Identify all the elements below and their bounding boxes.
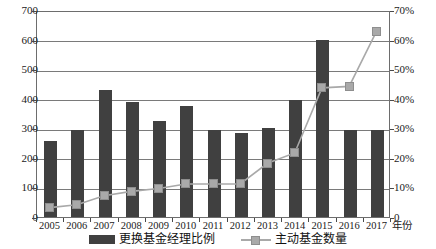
left-axis-tick-mark: [32, 11, 36, 12]
bar-2015: [316, 40, 329, 217]
gridline: [37, 100, 389, 101]
x-axis-tick-mark: [199, 218, 200, 222]
line-marker-2005: [45, 203, 54, 212]
x-axis-title: 年份: [392, 220, 412, 232]
left-axis-tick-mark: [32, 188, 36, 189]
x-axis-tick-mark: [63, 218, 64, 222]
x-axis-tick-label-2017: 2017: [360, 220, 392, 232]
legend-entry-line-series: 主动基金数量: [241, 233, 347, 246]
legend-label-line-series: 主动基金数量: [275, 233, 347, 246]
x-axis-tick-mark: [308, 218, 309, 222]
line-marker-2017: [372, 27, 381, 36]
legend-entry-bar-series: 更换基金经理比例: [89, 233, 215, 246]
bar-2013: [262, 128, 275, 217]
bar-2011: [208, 130, 221, 217]
x-axis-tick-mark: [145, 218, 146, 222]
line-marker-2012: [236, 179, 245, 188]
bar-2014: [289, 100, 302, 217]
bar-2017: [371, 130, 384, 217]
line-marker-2015: [317, 83, 326, 92]
left-axis-tick-mark: [32, 100, 36, 101]
right-axis-tick-mark: [390, 70, 394, 71]
gridline: [37, 41, 389, 42]
line-marker-2009: [154, 184, 163, 193]
line-marker-2014: [290, 148, 299, 157]
right-axis-tick-label: 60%: [394, 35, 434, 46]
right-axis-tick-mark: [390, 159, 394, 160]
x-axis-tick-mark: [281, 218, 282, 222]
right-axis-tick-label: 30%: [394, 123, 434, 134]
legend-line-marker-swatch-icon: [241, 235, 271, 244]
combo-chart: 0100200300400500600700 010%20%30%40%50%6…: [0, 0, 436, 249]
left-axis-tick-mark: [32, 41, 36, 42]
line-marker-2016: [345, 82, 354, 91]
left-axis-tick-mark: [32, 159, 36, 160]
right-axis-tick-mark: [390, 41, 394, 42]
bar-2009: [153, 121, 166, 217]
x-axis-tick-mark: [172, 218, 173, 222]
bar-2016: [344, 130, 357, 217]
right-axis-tick-mark: [390, 100, 394, 101]
line-marker-2008: [127, 187, 136, 196]
x-axis-tick-mark: [36, 218, 37, 222]
right-axis-tick-label: 70%: [394, 5, 434, 16]
right-axis-tick-mark: [390, 129, 394, 130]
left-axis-tick-mark: [32, 70, 36, 71]
bar-2012: [235, 133, 248, 217]
x-axis-tick-mark: [118, 218, 119, 222]
bar-2010: [180, 106, 193, 217]
x-axis-tick-mark: [363, 218, 364, 222]
x-axis-tick-mark: [390, 218, 391, 222]
x-axis-tick-mark: [254, 218, 255, 222]
x-axis-tick-mark: [227, 218, 228, 222]
x-axis-tick-mark: [336, 218, 337, 222]
right-axis-tick-label: 50%: [394, 64, 434, 75]
left-axis-tick-mark: [32, 129, 36, 130]
right-axis-tick-label: 20%: [394, 153, 434, 164]
line-marker-2007: [100, 191, 109, 200]
gridline: [37, 71, 389, 72]
bar-2008: [126, 102, 139, 217]
right-axis-tick-label: 40%: [394, 94, 434, 105]
legend-label-bar-series: 更换基金经理比例: [119, 233, 215, 246]
right-axis-tick-mark: [390, 188, 394, 189]
line-marker-2013: [263, 159, 272, 168]
line-marker-2006: [72, 200, 81, 209]
line-marker-2011: [209, 179, 218, 188]
legend-bar-swatch-icon: [89, 235, 115, 244]
right-axis-tick-label: 10%: [394, 182, 434, 193]
right-axis-tick-mark: [390, 11, 394, 12]
chart-legend: 更换基金经理比例 主动基金数量: [0, 233, 436, 246]
line-marker-2010: [181, 179, 190, 188]
x-axis-tick-mark: [90, 218, 91, 222]
